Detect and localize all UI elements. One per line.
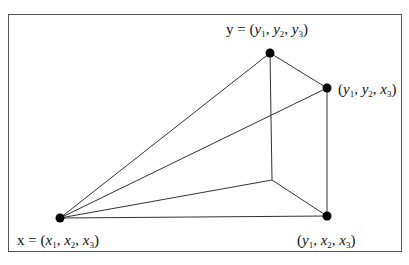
edge-x-y1x2x3 [60, 216, 327, 218]
label-y1y2x3: (y1, y2, x3) [338, 81, 397, 99]
edge-y-y1y2x3 [270, 53, 327, 88]
node-y1x2x3 [323, 212, 332, 221]
node-x [56, 214, 65, 223]
lattice-diagram: x = (x1, x2, x3)y = (y1, y2, y3)(y1, y2,… [0, 0, 409, 265]
edge-y-hidden [270, 53, 272, 180]
edge-x-y [60, 53, 270, 218]
label-x: x = (x1, x2, x3) [17, 232, 99, 250]
label-y1x2x3: (y1, x2, x3) [297, 232, 356, 250]
edge-x-hidden [60, 180, 272, 218]
edge-x-y1y2x3 [60, 88, 327, 218]
edge-hidden-y1x2x3 [272, 180, 327, 216]
label-y: y = (y1, y2, y3) [226, 21, 308, 39]
node-y1y2x3 [323, 84, 332, 93]
node-y [266, 49, 275, 58]
